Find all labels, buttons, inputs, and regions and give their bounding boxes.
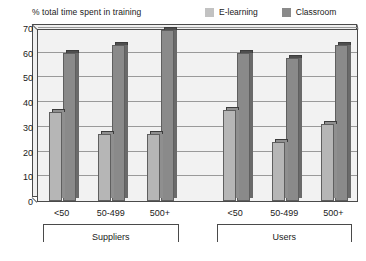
legend-label-elearning: E-learning: [219, 7, 258, 17]
bar-side-face: [334, 124, 337, 198]
x-axis-category-label: 500+: [323, 208, 343, 218]
bar-side-face: [285, 142, 288, 198]
x-axis-category-label: 500+: [150, 208, 170, 218]
x-axis-category-label: 50-499: [97, 208, 125, 218]
bar-front-face: [147, 134, 160, 201]
x-axis-category-label: <50: [227, 208, 242, 218]
bar-e-learning-4: [272, 139, 285, 201]
y-axis-tick-label: 40: [23, 98, 33, 108]
bar-front-face: [223, 110, 236, 201]
y-axis-tick-label: 10: [23, 172, 33, 182]
bars-layer: [38, 30, 357, 201]
bar-side-face: [76, 53, 79, 198]
chart-header: % total time spent in training E-learnin…: [0, 7, 366, 23]
y-axis-caption: % total time spent in training: [32, 7, 141, 17]
legend-item-elearning: E-learning: [205, 7, 258, 17]
y-axis-tick-label: 30: [23, 123, 33, 133]
bar-front-face: [321, 124, 334, 201]
bar-front-face: [98, 134, 111, 201]
x-axis-category-label: 50-499: [270, 208, 298, 218]
bar-side-face: [111, 134, 114, 198]
y-axis-tick-label: 20: [23, 148, 33, 158]
legend-swatch-classroom: [282, 8, 291, 17]
bar-side-face: [348, 45, 351, 198]
bevel-line: [357, 24, 359, 29]
chart-legend: E-learning Classroom: [205, 7, 336, 17]
bar-side-face: [299, 58, 302, 198]
bar-front-face: [49, 112, 62, 201]
group-label: Suppliers: [88, 232, 134, 242]
x-axis-group-brackets: SuppliersUsers: [0, 224, 366, 256]
legend-item-classroom: Classroom: [282, 7, 337, 17]
x-axis-category-labels: <5050-499500+<5050-499500+: [0, 208, 366, 222]
gridline: [38, 27, 357, 28]
x-axis-category-label: <50: [54, 208, 69, 218]
y-axis-tick-label: 50: [23, 73, 33, 83]
bar-e-learning-0: [49, 109, 62, 201]
legend-label-classroom: Classroom: [296, 7, 337, 17]
bar-e-learning-3: [223, 107, 236, 201]
bar-side-face: [250, 53, 253, 198]
bar-side-face: [236, 110, 239, 198]
bar-side-face: [62, 112, 65, 198]
group-label: Users: [268, 232, 300, 242]
plot-area: 706050403020100: [0, 24, 366, 206]
bar-e-learning-2: [147, 131, 160, 201]
bar-side-face: [160, 134, 163, 198]
bar-e-learning-5: [321, 121, 334, 201]
bar-e-learning-1: [98, 131, 111, 201]
bar-side-face: [125, 45, 128, 198]
legend-swatch-elearning: [205, 8, 214, 17]
bar-side-face: [174, 30, 177, 198]
plot-front-plane: [37, 29, 358, 202]
bar-chart: % total time spent in training E-learnin…: [0, 0, 366, 261]
y-axis-tick-label: 60: [23, 49, 33, 59]
bar-front-face: [272, 142, 285, 201]
